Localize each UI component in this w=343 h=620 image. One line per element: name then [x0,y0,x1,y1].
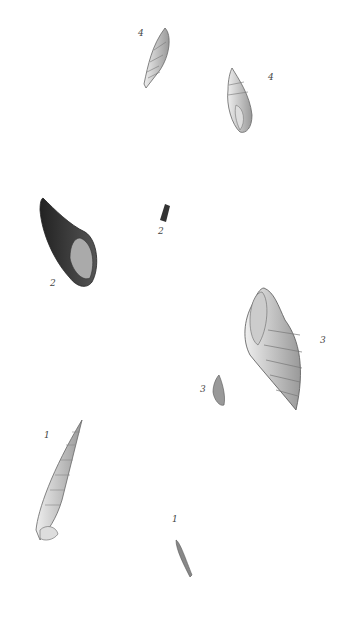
shell-plate-illustration [0,0,343,620]
shell-fig1a [36,420,82,540]
shell-fig4a [144,28,169,88]
shell-fig4b [228,68,252,132]
figure-label-3b: 3 [200,384,206,394]
shell-fig3b [213,375,225,405]
figure-label-2b: 2 [158,226,164,236]
figure-label-2a: 2 [50,278,56,288]
figure-label-3a: 3 [320,335,326,345]
shell-fig3a [245,288,302,410]
figure-label-1b: 1 [172,514,178,524]
figure-label-1a: 1 [44,430,50,440]
shell-fig2a [40,198,97,286]
shell-fig1b [176,540,192,577]
shell-fig2b [160,204,170,222]
figure-label-4b: 4 [268,72,274,82]
figure-label-4a: 4 [138,28,144,38]
